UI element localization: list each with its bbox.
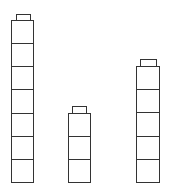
stack-count-label: 7 cubes [0,0,1,1]
stack-count-label: 5 cubes [0,0,1,1]
cube [11,43,34,67]
cube [11,20,34,44]
stack-count-label: 3 cubes [0,0,1,1]
cube [136,136,160,160]
cube [136,89,160,113]
cube [11,89,34,114]
cube [11,66,34,90]
cube [68,159,91,183]
cube [11,159,34,183]
cube [136,66,160,90]
cube [11,113,34,137]
cube [68,136,91,160]
cube [136,112,160,137]
cube [136,159,160,183]
cube [11,136,34,160]
cube [68,113,91,137]
